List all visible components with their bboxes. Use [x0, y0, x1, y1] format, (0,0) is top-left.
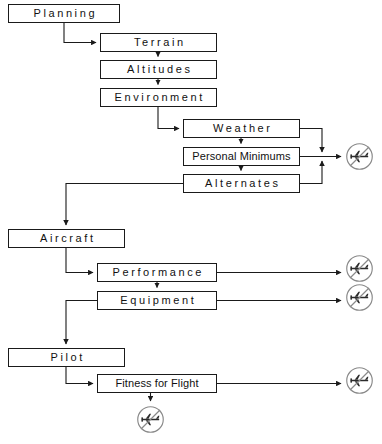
node-alternates-label: Alternates — [202, 178, 280, 189]
node-personal-minimums-label: Personal Minimums — [192, 151, 290, 162]
node-equipment[interactable]: Equipment — [97, 291, 217, 310]
node-weather[interactable]: Weather — [183, 119, 300, 138]
no-fly-decision-icon[interactable] — [345, 366, 374, 395]
node-terrain-label: Terrain — [131, 37, 185, 48]
connector-weather-junction — [300, 129, 322, 153]
connector-alternates-aircraft — [66, 184, 183, 226]
node-pilot[interactable]: Pilot — [8, 348, 125, 367]
node-personal-minimums[interactable]: Personal Minimums — [183, 147, 300, 166]
node-performance[interactable]: Performance — [97, 263, 217, 282]
node-altitudes-label: Altitudes — [124, 64, 192, 75]
node-terrain[interactable]: Terrain — [100, 33, 217, 52]
node-performance-label: Performance — [110, 267, 204, 278]
connector-planning-terrain — [64, 23, 96, 43]
no-fly-decision-icon[interactable] — [136, 405, 165, 434]
connector-environment-weather — [158, 107, 179, 129]
flowchart-canvas: Planning Terrain Altitudes Environment W… — [0, 0, 382, 444]
connector-aircraft-performance — [66, 248, 93, 273]
node-equipment-label: Equipment — [118, 295, 197, 306]
node-weather-label: Weather — [210, 123, 272, 134]
no-fly-decision-icon[interactable] — [345, 283, 374, 312]
node-alternates[interactable]: Alternates — [183, 174, 300, 193]
connector-pilot-fitness — [66, 367, 93, 384]
node-pilot-label: Pilot — [48, 352, 85, 363]
connector-alternates-junction — [300, 161, 322, 184]
connector-equipment-pilot — [66, 301, 97, 345]
node-aircraft-label: Aircraft — [37, 233, 95, 244]
no-fly-decision-icon[interactable] — [345, 254, 374, 283]
node-environment-label: Environment — [112, 92, 205, 103]
node-fitness-for-flight[interactable]: Fitness for Flight — [97, 374, 217, 393]
node-environment[interactable]: Environment — [100, 88, 217, 107]
node-altitudes[interactable]: Altitudes — [100, 60, 217, 79]
node-fitness-for-flight-label: Fitness for Flight — [115, 378, 198, 389]
node-planning[interactable]: Planning — [8, 4, 120, 23]
node-planning-label: Planning — [31, 8, 97, 19]
no-fly-decision-icon[interactable] — [345, 142, 374, 171]
node-aircraft[interactable]: Aircraft — [8, 229, 125, 248]
